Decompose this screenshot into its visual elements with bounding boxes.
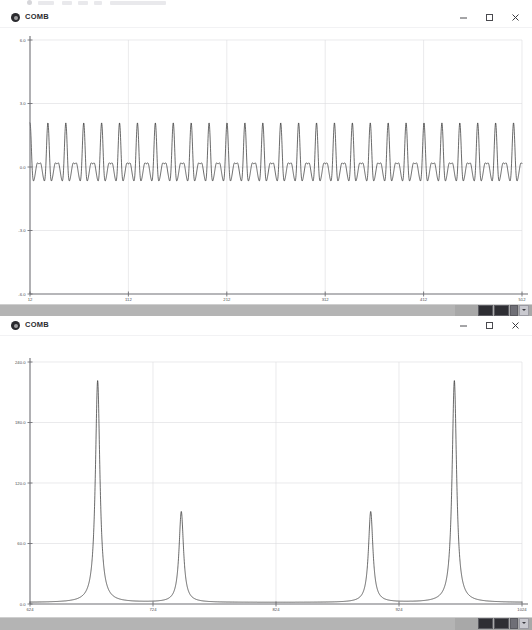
window-controls-2: [450, 316, 528, 335]
svg-text:0.0: 0.0: [20, 165, 26, 170]
svg-text:6.0: 6.0: [20, 38, 26, 43]
scrollbar-thumb-2[interactable]: [0, 618, 455, 630]
svg-text:120.0: 120.0: [15, 481, 26, 486]
svg-text:624: 624: [27, 607, 35, 612]
horizontal-scrollbar-2[interactable]: [0, 617, 532, 630]
close-icon[interactable]: [502, 316, 528, 335]
svg-text:212: 212: [223, 297, 231, 302]
toolbar-dropdown-icon[interactable]: [519, 305, 529, 316]
minimize-icon[interactable]: [450, 316, 476, 335]
svg-text:180.0: 180.0: [15, 420, 26, 425]
svg-text:924: 924: [396, 607, 404, 612]
svg-text:724: 724: [150, 607, 158, 612]
ghost-text-5: [110, 1, 166, 5]
svg-text:412: 412: [420, 297, 428, 302]
titlebar-window-2[interactable]: COMB: [0, 316, 532, 336]
svg-text:1024: 1024: [517, 607, 527, 612]
mini-toolbar-1: [478, 306, 529, 315]
toolbar-button-3[interactable]: [510, 618, 518, 629]
plot-frequency-domain[interactable]: 0.060.0120.0180.0240.06247248249241024: [0, 336, 532, 617]
svg-text:-3.0: -3.0: [18, 228, 26, 233]
window-comb-frequency-domain: COMB 0.060.0120.0180.0240.06247248249241…: [0, 316, 532, 630]
window-comb-time-domain: COMB -6.0-3.00.03.06.012112212312412512: [0, 8, 532, 317]
svg-text:3.0: 3.0: [20, 101, 26, 106]
close-icon[interactable]: [502, 8, 528, 27]
toolbar-button-2[interactable]: [494, 618, 509, 629]
ghost-text-2: [62, 1, 72, 5]
svg-text:112: 112: [125, 297, 132, 302]
plot-time-domain[interactable]: -6.0-3.00.03.06.012112212312412512: [0, 28, 532, 304]
window-title: COMB: [25, 320, 49, 329]
svg-text:0.0: 0.0: [20, 602, 26, 607]
ghost-text-1: [38, 1, 54, 5]
plot-canvas-frequency-domain: 0.060.0120.0180.0240.06247248249241024: [0, 336, 532, 617]
plot-canvas-time-domain: -6.0-3.00.03.06.012112212312412512: [0, 28, 532, 304]
partial-window-strip-above: [0, 0, 532, 8]
window-title: COMB: [25, 12, 49, 21]
svg-text:240.0: 240.0: [15, 360, 26, 365]
ghost-text-4: [94, 1, 102, 5]
toolbar-button-2[interactable]: [494, 305, 509, 316]
window-controls-1: [450, 8, 528, 27]
toolbar-button-1[interactable]: [478, 305, 493, 316]
ghost-text-3: [78, 1, 88, 5]
toolbar-dropdown-icon[interactable]: [519, 618, 529, 629]
mini-toolbar-2: [478, 619, 529, 628]
svg-text:512: 512: [519, 297, 527, 302]
maximize-icon[interactable]: [476, 316, 502, 335]
app-circle-icon: [11, 13, 20, 22]
titlebar-window-1[interactable]: COMB: [0, 8, 532, 28]
svg-text:60.0: 60.0: [17, 541, 26, 546]
toolbar-button-3[interactable]: [510, 305, 518, 316]
svg-text:-6.0: -6.0: [18, 292, 26, 297]
svg-text:12: 12: [28, 297, 33, 302]
toolbar-button-1[interactable]: [478, 618, 493, 629]
minimize-icon[interactable]: [450, 8, 476, 27]
app-circle-icon: [11, 321, 20, 330]
maximize-icon[interactable]: [476, 8, 502, 27]
svg-text:312: 312: [322, 297, 330, 302]
ghost-app-icon: [27, 0, 32, 5]
svg-text:824: 824: [273, 607, 281, 612]
